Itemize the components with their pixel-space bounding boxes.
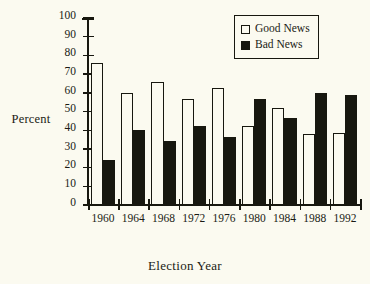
x-tick [239,199,241,210]
bar-1984-bad-news [284,118,296,205]
x-tick [179,199,181,210]
y-tick-label: 30 [52,141,76,153]
x-tick [88,199,90,210]
y-tick-label: 70 [52,66,76,78]
bar-chart: Percent 1009080706050403020100 196019641… [0,0,370,284]
y-tick: 80 [83,55,94,56]
bar-1964-bad-news [133,130,145,205]
legend-item-good-news: Good News [241,21,310,37]
y-tick-label: 100 [52,10,76,22]
x-tick-label-1988: 1988 [303,212,326,224]
legend-item-bad-news: Bad News [241,37,310,53]
x-tick-label-1984: 1984 [273,212,296,224]
x-tick [209,199,211,210]
y-tick-label: 90 [52,29,76,41]
bar-1984-good-news [272,108,284,205]
bar-1960-bad-news [103,160,115,205]
x-tick [148,199,150,210]
y-tick: 100 [83,17,94,18]
bar-1972-good-news [182,99,194,205]
x-tick [118,199,120,210]
bar-1992-bad-news [345,95,357,205]
bar-1964-good-news [121,93,133,205]
x-tick-label-1992: 1992 [333,212,356,224]
x-tick [360,199,362,210]
legend: Good News Bad News [234,15,319,59]
x-tick-label-1972: 1972 [182,212,205,224]
x-tick [300,199,302,210]
bar-1980-good-news [242,126,254,205]
plot-area: 1009080706050403020100 [88,18,360,205]
y-tick-label: 10 [52,178,76,190]
y-tick-label: 20 [52,159,76,171]
bar-1988-good-news [303,134,315,205]
bar-1976-bad-news [224,137,236,205]
x-tick-label-1964: 1964 [122,212,145,224]
bar-1968-bad-news [164,141,176,205]
bar-1992-good-news [333,133,345,205]
x-tick [330,199,332,210]
bar-1972-bad-news [194,126,206,205]
y-tick-label: 50 [52,103,76,115]
y-tick: 90 [83,36,94,37]
bar-1988-bad-news [315,93,327,205]
bar-1980-bad-news [254,99,266,205]
legend-label-bad-news: Bad News [255,39,303,51]
open-square-icon [241,25,250,34]
x-axis-title: Election Year [0,258,370,274]
bar-1968-good-news [151,82,163,205]
x-tick-label-1960: 1960 [92,212,115,224]
x-tick-label-1968: 1968 [152,212,175,224]
x-tick [269,199,271,210]
y-axis-title: Percent [4,112,58,127]
y-tick-label: 40 [52,122,76,134]
legend-label-good-news: Good News [255,23,310,35]
bar-1960-good-news [91,63,103,205]
x-tick-label-1980: 1980 [243,212,266,224]
y-tick-label: 0 [52,197,76,209]
filled-square-icon [241,41,250,50]
y-tick-label: 80 [52,47,76,59]
x-tick-label-1976: 1976 [213,212,236,224]
y-tick-label: 60 [52,85,76,97]
bar-1976-good-news [212,88,224,205]
